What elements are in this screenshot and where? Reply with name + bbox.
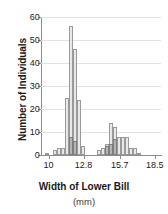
gridline — [41, 86, 161, 87]
y-tick-label: 0 — [35, 150, 40, 160]
x-tick-label: 10 — [43, 160, 53, 170]
y-tick-label: 20 — [30, 104, 40, 114]
y-axis-title: Number of Individuals — [17, 15, 28, 165]
gridline — [41, 17, 161, 18]
y-tick-label: 60 — [30, 12, 40, 22]
histogram-bar — [73, 141, 77, 155]
x-axis-title: Width of Lower Bill — [0, 181, 168, 192]
gridline — [41, 109, 161, 110]
x-tick-label: 15.7 — [111, 160, 129, 170]
y-tick-label: 50 — [30, 35, 40, 45]
x-tick — [49, 155, 50, 159]
x-tick-label: 18.5 — [146, 160, 164, 170]
x-tick — [84, 155, 85, 159]
histogram-bar — [137, 153, 141, 155]
histogram-bar — [81, 146, 85, 155]
x-tick — [155, 155, 156, 159]
y-tick-label: 40 — [30, 58, 40, 68]
plot-area: 0102030405060 1012.815.718.5 — [41, 17, 161, 155]
y-tick-label: 10 — [30, 127, 40, 137]
gridline — [41, 132, 161, 133]
y-tick-label: 30 — [30, 81, 40, 91]
histogram-figure: Number of Individuals 0102030405060 1012… — [0, 0, 168, 214]
histogram-bar — [113, 139, 117, 155]
x-axis-units: (mm) — [0, 196, 168, 207]
histogram-bar — [45, 153, 49, 155]
x-tick — [120, 155, 121, 159]
gridline — [41, 40, 161, 41]
x-tick-label: 12.8 — [75, 160, 93, 170]
x-axis-line — [41, 155, 162, 156]
gridline — [41, 63, 161, 64]
